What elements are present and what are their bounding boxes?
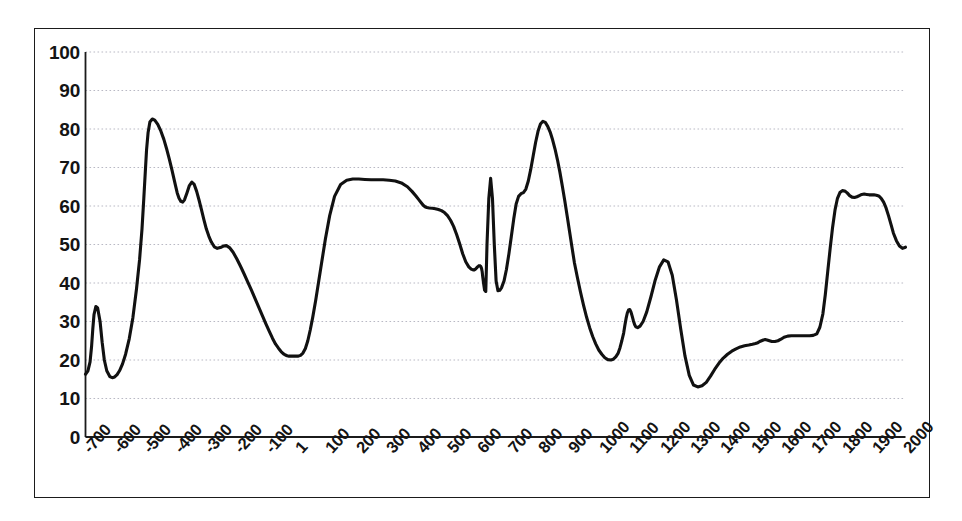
x-tick-label-1600: 1600 <box>778 418 814 456</box>
x-tick-label--100: -100 <box>262 421 296 456</box>
x-tick-label-100: 100 <box>322 425 352 456</box>
x-tick-label-1300: 1300 <box>687 418 723 456</box>
x-tick-label--700: -700 <box>80 421 114 456</box>
x-tick-label-500: 500 <box>444 425 474 456</box>
x-tick-label-700: 700 <box>505 425 535 456</box>
x-axis-tick-labels: -700-600-500-400-300-200-100110020030040… <box>0 0 962 521</box>
x-tick-label-1100: 1100 <box>626 419 662 456</box>
x-tick-label-1: 1 <box>292 438 310 456</box>
x-tick-label-600: 600 <box>474 425 504 456</box>
x-tick-label-400: 400 <box>414 425 444 456</box>
x-tick-label-200: 200 <box>353 425 383 456</box>
x-tick-label-1000: 1000 <box>596 418 632 456</box>
x-tick-label--200: -200 <box>231 421 265 456</box>
x-tick-label-800: 800 <box>535 425 565 456</box>
x-tick-label--300: -300 <box>201 421 235 456</box>
x-tick-label-1500: 1500 <box>748 418 784 456</box>
x-tick-label-900: 900 <box>565 425 595 456</box>
x-tick-label-1900: 1900 <box>869 418 905 456</box>
x-tick-label--400: -400 <box>171 421 205 456</box>
x-tick-label-1400: 1400 <box>717 418 753 456</box>
x-tick-label-1200: 1200 <box>657 418 693 456</box>
x-tick-label-1700: 1700 <box>808 418 844 456</box>
x-tick-label--500: -500 <box>140 421 174 456</box>
x-tick-label--600: -600 <box>110 421 144 456</box>
chart-figure: 0102030405060708090100 -700-600-500-400-… <box>0 0 962 521</box>
x-tick-label-300: 300 <box>383 425 413 456</box>
x-tick-label-2000: 2000 <box>900 418 936 456</box>
x-tick-label-1800: 1800 <box>839 418 875 456</box>
